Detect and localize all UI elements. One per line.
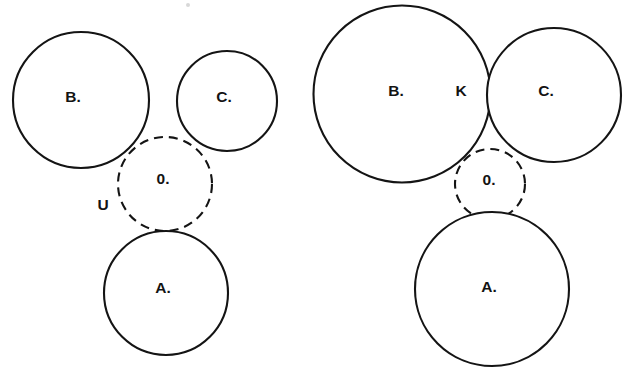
circle-c-right	[487, 28, 621, 162]
diagram-canvas: B. C. 0. A. U B. C. 0. A. K	[0, 0, 636, 378]
scan-speck	[186, 3, 190, 7]
circles-diagram-figure: B. C. 0. A. U B. C. 0. A. K	[0, 0, 636, 378]
circle-c-right-label: C.	[538, 82, 554, 99]
circle-c-left-label: C.	[216, 88, 232, 105]
circle-a-left-label: A.	[155, 279, 171, 296]
circle-o-right-label: 0.	[483, 171, 496, 188]
circle-o-left-label: 0.	[157, 170, 170, 187]
circle-b-right-label: B.	[388, 82, 404, 99]
circle-b-left	[13, 32, 149, 168]
point-label-u: U	[97, 196, 108, 213]
left-configuration: B. C. 0. A. U	[13, 32, 277, 355]
circle-a-right-label: A.	[481, 278, 497, 295]
right-configuration: B. C. 0. A. K	[314, 6, 622, 367]
scan-speck-group	[186, 3, 190, 7]
point-label-k: K	[455, 82, 467, 99]
circle-b-left-label: B.	[65, 88, 81, 105]
